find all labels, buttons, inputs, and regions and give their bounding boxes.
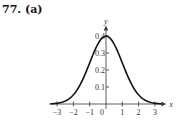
x-tick-label: 2 (137, 108, 141, 117)
x-tick-label: 3 (153, 108, 157, 117)
y-tick-label: 0.3 (95, 49, 105, 58)
y-axis-label: y (103, 17, 108, 26)
x-axis-arrow (161, 102, 166, 106)
x-tick-label: −1 (85, 108, 94, 117)
x-tick-label: 0 (100, 108, 104, 117)
x-tick-label: 1 (120, 108, 124, 117)
x-tick-label: −2 (69, 108, 78, 117)
y-tick-label: 0.1 (95, 83, 105, 92)
chart-svg: xy −3−2−101230.10.20.30.4 (0, 0, 190, 125)
x-tick-label: −3 (53, 108, 62, 117)
y-axis-arrow (104, 26, 108, 31)
y-tick-label: 0.2 (95, 66, 105, 75)
x-axis-label: x (168, 100, 173, 109)
